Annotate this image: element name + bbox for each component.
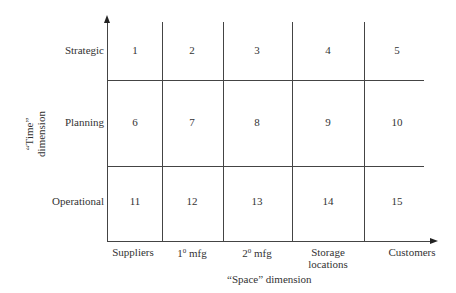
y-axis-title-line2: dimension	[35, 94, 47, 174]
cell-12: 12	[172, 195, 212, 207]
cell-4: 4	[308, 44, 348, 56]
col-label-secondary-mfg: 20 mfg	[222, 247, 292, 259]
cell-13: 13	[237, 195, 277, 207]
grid-line-v1	[162, 22, 163, 242]
cell-10: 10	[377, 116, 417, 128]
col-label-storage-line1: Storage	[293, 246, 363, 258]
y-axis-arrow-icon	[104, 15, 110, 23]
row-label-planning: Planning	[4, 116, 104, 128]
y-axis	[107, 22, 108, 242]
col-label-storage-line2: locations	[293, 258, 363, 270]
grid-line-v4	[364, 22, 365, 242]
grid-line-v2	[223, 22, 224, 242]
col-label-storage-locations: Storage locations	[293, 246, 363, 270]
cell-6: 6	[115, 116, 155, 128]
row-label-operational: Operational	[4, 195, 104, 207]
cell-1: 1	[115, 44, 155, 56]
col-label-primary-mfg-rest: mfg	[186, 247, 206, 259]
grid-line-h2	[107, 166, 424, 167]
row-label-strategic: Strategic	[4, 44, 104, 56]
cell-7: 7	[172, 116, 212, 128]
grid-line-h1	[107, 80, 424, 81]
x-axis	[107, 241, 431, 242]
cell-11: 11	[115, 195, 155, 207]
cell-9: 9	[308, 116, 348, 128]
cell-2: 2	[172, 44, 212, 56]
cell-8: 8	[237, 116, 277, 128]
col-label-secondary-mfg-rest: mfg	[251, 247, 271, 259]
x-axis-arrow-icon	[430, 238, 438, 244]
y-axis-title: “Time” dimension	[23, 94, 47, 174]
cell-5: 5	[377, 44, 417, 56]
cell-3: 3	[237, 44, 277, 56]
cell-15: 15	[377, 195, 417, 207]
grid-line-v3	[292, 22, 293, 242]
cell-14: 14	[308, 195, 348, 207]
col-label-primary-mfg: 10 mfg	[157, 247, 227, 259]
y-axis-title-line1: “Time”	[23, 94, 35, 174]
x-axis-title: “Space” dimension	[227, 273, 312, 285]
col-label-customers: Customers	[377, 246, 447, 258]
